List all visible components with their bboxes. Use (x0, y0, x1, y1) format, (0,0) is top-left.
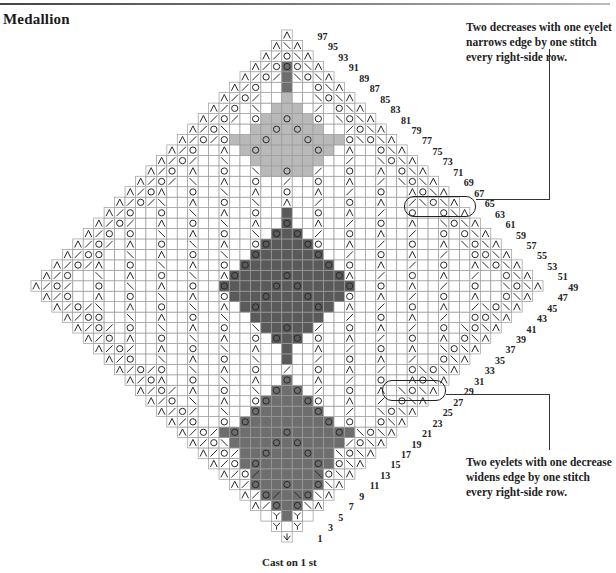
row-number: 77 (422, 136, 432, 146)
row-number: 87 (370, 84, 380, 94)
row-number: 59 (516, 231, 526, 241)
row-number: 89 (359, 74, 369, 84)
row-number: 45 (547, 304, 557, 314)
row-number: 31 (474, 377, 484, 387)
row-number: 29 (464, 387, 474, 397)
row-number: 93 (338, 53, 348, 63)
row-number: 35 (495, 356, 505, 366)
row-number: 97 (317, 32, 327, 42)
callout-line-top-v (549, 49, 550, 200)
annotation-bottom: Two eyelets with one decrease widens edg… (466, 455, 616, 500)
row-number: 15 (391, 460, 401, 470)
row-number: 57 (526, 241, 536, 251)
callout-line-bottom-v (549, 394, 550, 450)
row-number: 33 (485, 366, 495, 376)
row-number: 73 (443, 157, 453, 167)
row-number: 85 (380, 95, 390, 105)
row-number: 13 (380, 471, 390, 481)
row-number: 11 (370, 481, 379, 491)
row-number: 95 (328, 42, 338, 52)
row-number: 47 (558, 293, 568, 303)
row-number: 83 (391, 105, 401, 115)
cast-on-caption: Cast on 1 st (262, 556, 317, 568)
row-number: 91 (349, 63, 359, 73)
row-number: 19 (412, 440, 422, 450)
callout-oval-bottom (382, 380, 446, 401)
row-number: 81 (401, 116, 411, 126)
row-number: 9 (359, 492, 364, 502)
row-number: 39 (516, 335, 526, 345)
row-number: 5 (338, 513, 343, 523)
row-number: 3 (328, 523, 333, 533)
row-number: 69 (464, 178, 474, 188)
row-number: 67 (474, 189, 484, 199)
row-number: 7 (349, 502, 354, 512)
row-number: 71 (453, 168, 463, 178)
callout-line-bottom-h (446, 394, 550, 395)
row-number: 55 (537, 251, 547, 261)
row-number: 25 (443, 408, 453, 418)
row-number: 65 (485, 199, 495, 209)
row-number: 49 (568, 283, 578, 293)
row-number: 75 (432, 147, 442, 157)
row-number: 79 (412, 126, 422, 136)
row-number: 63 (495, 210, 505, 220)
row-number: 43 (537, 314, 547, 324)
annotation-top: Two decreases with one eyelet narrows ed… (466, 20, 616, 65)
row-number: 1 (317, 534, 322, 544)
row-number: 37 (506, 345, 516, 355)
callout-line-top-h (476, 199, 549, 200)
row-number: 21 (422, 429, 432, 439)
row-number: 53 (547, 262, 557, 272)
row-number: 17 (401, 450, 411, 460)
row-number: 51 (558, 272, 568, 282)
row-number: 27 (453, 398, 463, 408)
callout-oval-top (404, 196, 476, 217)
row-number: 23 (432, 419, 442, 429)
row-number: 61 (506, 220, 516, 230)
row-number: 41 (526, 325, 536, 335)
